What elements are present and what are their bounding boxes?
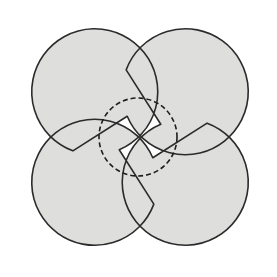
quatrefoil-diagram-svg	[0, 0, 277, 277]
figure-canvas	[0, 0, 277, 277]
figure-background	[0, 0, 277, 277]
quatrefoil-shape	[32, 29, 249, 246]
quatrefoil-group	[32, 29, 249, 246]
